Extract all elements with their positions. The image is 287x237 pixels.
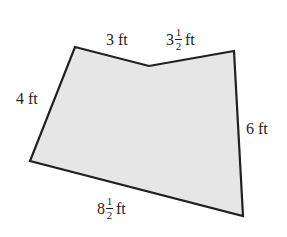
side-unit: ft <box>28 90 38 107</box>
side-unit: ft <box>116 201 126 217</box>
side-label-right: 6 ft <box>246 121 268 137</box>
fraction-denominator: 2 <box>176 41 182 52</box>
side-label-top-right: 3 1 2 ft <box>166 27 195 52</box>
fraction-numerator: 1 <box>176 27 182 38</box>
side-label-left: 4 ft <box>16 91 38 107</box>
fraction: 1 2 <box>106 196 113 221</box>
pentagon-figure <box>0 0 287 237</box>
side-label-top-left: 3 ft <box>106 32 128 48</box>
side-unit: ft <box>185 32 195 48</box>
side-whole: 8 <box>97 201 105 217</box>
side-value: 3 <box>106 31 114 48</box>
side-unit: ft <box>258 120 268 137</box>
pentagon-shape <box>30 47 243 216</box>
side-unit: ft <box>118 31 128 48</box>
fraction-denominator: 2 <box>107 210 113 221</box>
fraction: 1 2 <box>175 27 182 52</box>
side-value: 4 <box>16 90 24 107</box>
fraction-numerator: 1 <box>107 196 113 207</box>
side-whole: 3 <box>166 32 174 48</box>
side-value: 6 <box>246 120 254 137</box>
side-label-bottom: 8 1 2 ft <box>97 196 126 221</box>
